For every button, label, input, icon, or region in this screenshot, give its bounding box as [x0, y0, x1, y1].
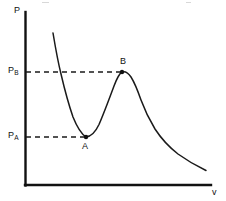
- point-a-label: A: [82, 142, 88, 151]
- x-axis-label: v: [212, 188, 217, 197]
- y-axis-label: P: [14, 6, 20, 15]
- isotherm-curve: [53, 33, 206, 171]
- point-b-label: B: [120, 57, 126, 66]
- pressure-a-tick-label: PA: [8, 131, 19, 142]
- plot-canvas: [0, 0, 226, 201]
- pressure-b-tick-label: PB: [8, 66, 19, 77]
- pressure-b-subscript: B: [14, 69, 18, 76]
- pressure-a-subscript: A: [14, 134, 18, 141]
- point-b-marker: [120, 70, 124, 74]
- pv-diagram-figure: P v PB PA A B: [0, 0, 226, 201]
- point-a-marker: [84, 135, 88, 139]
